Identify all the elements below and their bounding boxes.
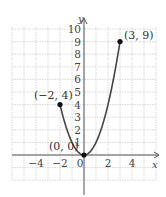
point-label: (−2, 4) (34, 89, 73, 102)
y-tick-label: 3 (74, 111, 81, 123)
y-tick-label: 8 (74, 48, 81, 60)
x-tick-label: 0 (77, 157, 84, 169)
y-tick-label: 2 (74, 124, 81, 136)
data-point (117, 39, 122, 44)
y-tick-label: 6 (74, 73, 81, 85)
x-tick-label: −4 (28, 157, 44, 169)
data-point (81, 152, 86, 157)
points: (−2, 4)(0, 0)(3, 9) (34, 29, 154, 158)
y-tick-label: 7 (74, 61, 81, 73)
y-tick-label: 5 (74, 86, 81, 98)
point-label: (0, 0) (49, 140, 79, 153)
x-tick-label: −2 (52, 157, 67, 169)
y-tick-label: 4 (74, 99, 81, 111)
x-axis-label: x (152, 159, 158, 170)
point-label: (3, 9) (124, 29, 154, 42)
data-point (57, 102, 62, 107)
x-tick-label: 2 (105, 157, 112, 169)
graph: yx −4−202412345678910 (−2, 4)(0, 0)(3, 9… (0, 0, 166, 197)
x-tick-label: 4 (129, 157, 136, 169)
y-tick-label: 9 (74, 36, 81, 48)
y-tick-label: 10 (68, 23, 81, 35)
